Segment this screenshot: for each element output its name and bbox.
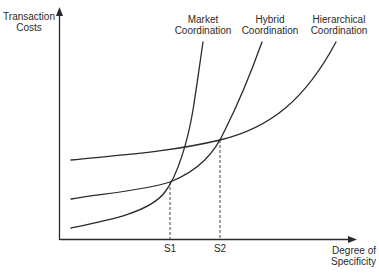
hybrid-label-line1: Hybrid (230, 14, 310, 25)
y-axis-label-line2: Costs (0, 22, 58, 33)
hierarchical-coordination-label: Hierarchical Coordination (299, 14, 379, 36)
s2-tick-label: S2 (210, 243, 230, 254)
x-axis-label-line1: Degree of (330, 245, 376, 256)
y-axis-label-line1: Transaction (0, 11, 58, 22)
x-axis-label-line2: Specificity (330, 256, 376, 267)
hier-label-line2: Coordination (299, 25, 379, 36)
axes (60, 14, 351, 240)
market-coordination-curve (71, 42, 203, 228)
x-axis-arrow-icon (348, 236, 357, 243)
x-axis-label: Degree of Specificity (330, 245, 376, 267)
hybrid-coordination-curve (71, 42, 262, 199)
hybrid-label-line2: Coordination (230, 25, 310, 36)
hybrid-coordination-label: Hybrid Coordination (230, 14, 310, 36)
hier-label-line1: Hierarchical (299, 14, 379, 25)
hierarchical-coordination-curve (71, 42, 336, 160)
y-axis-label: Transaction Costs (0, 11, 58, 33)
s1-tick-label: S1 (160, 243, 180, 254)
